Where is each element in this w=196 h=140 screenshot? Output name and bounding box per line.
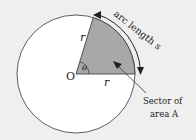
angle-label: θ [82,64,87,73]
radius-slanted-label: r [80,31,86,44]
sector-label-line1: Sector of [143,96,183,106]
center-label: O [66,70,75,83]
radius-horizontal-label: r [104,76,110,89]
sector-diagram: O r r θ arc length s Sector of area A [0,0,196,140]
sector-label-line2: area A [150,109,179,119]
